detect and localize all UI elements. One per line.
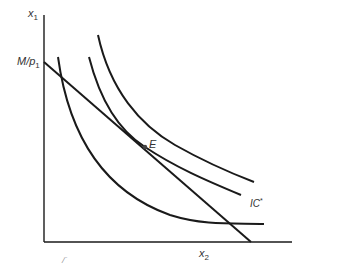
x-axis-label: x2 — [199, 247, 209, 262]
stray-mark: /‾ — [62, 256, 67, 265]
y-axis-label: x1 — [28, 7, 38, 22]
equilibrium-label: E — [149, 138, 156, 150]
ic-star-label: IC* — [250, 197, 263, 209]
indifference-curve-low — [58, 57, 264, 224]
indifference-curve-high — [98, 35, 254, 182]
equilibrium-point — [143, 145, 147, 149]
budget-line — [44, 62, 251, 242]
intercept-label: M/p1 — [17, 55, 40, 70]
diagram-canvas — [0, 0, 348, 275]
